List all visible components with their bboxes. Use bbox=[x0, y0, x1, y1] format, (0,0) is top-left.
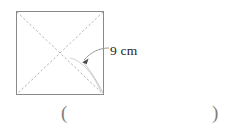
arrow-icon bbox=[82, 59, 88, 65]
figure-canvas: 9 cm ( ) bbox=[0, 0, 235, 133]
answer-open-paren: ( bbox=[61, 102, 67, 124]
leader-line bbox=[84, 48, 109, 60]
geometry-overlay bbox=[0, 0, 235, 133]
diagonal-measure-label: 9 cm bbox=[110, 43, 137, 58]
answer-close-paren: ) bbox=[212, 102, 218, 124]
